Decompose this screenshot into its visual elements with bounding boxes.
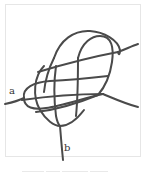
- rope-upper-right-end: [118, 44, 138, 52]
- rope-end-b: [60, 126, 63, 160]
- label-b: b: [64, 143, 70, 153]
- label-a: a: [9, 86, 15, 96]
- rope-end-a: [5, 98, 24, 104]
- caption-faint: [22, 161, 122, 165]
- knot-illustration: [0, 0, 147, 172]
- rope-lower-right-end: [103, 94, 138, 107]
